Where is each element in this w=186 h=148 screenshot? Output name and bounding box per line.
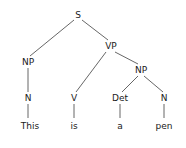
tree-edge xyxy=(122,76,138,92)
tree-edge xyxy=(82,20,108,40)
tree-edge xyxy=(144,76,163,92)
node-det: Det xyxy=(112,94,128,103)
leaf-this: This xyxy=(21,122,39,131)
tree-edge xyxy=(76,52,106,92)
node-np-object: NP xyxy=(135,66,147,75)
tree-edge xyxy=(30,20,74,56)
node-v: V xyxy=(71,94,77,103)
node-np-subject: NP xyxy=(22,58,34,67)
leaf-a: a xyxy=(117,122,123,131)
node-s: S xyxy=(75,11,81,20)
node-vp: VP xyxy=(105,42,117,51)
leaf-pen: pen xyxy=(156,122,173,131)
tree-edge xyxy=(115,52,138,64)
leaf-is: is xyxy=(70,122,77,131)
syntax-tree: S NP VP N V NP Det N This is a pen xyxy=(0,0,186,148)
node-n-subject: N xyxy=(25,94,32,103)
node-n-object: N xyxy=(161,94,168,103)
